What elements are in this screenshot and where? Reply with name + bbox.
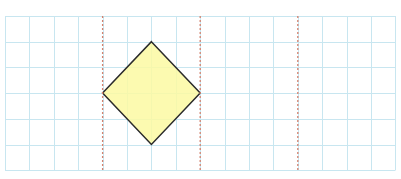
diamond-shape-layer <box>103 42 201 145</box>
diamond-shape <box>103 42 201 145</box>
grid-diagram <box>0 0 401 179</box>
diagram-canvas <box>0 0 401 179</box>
